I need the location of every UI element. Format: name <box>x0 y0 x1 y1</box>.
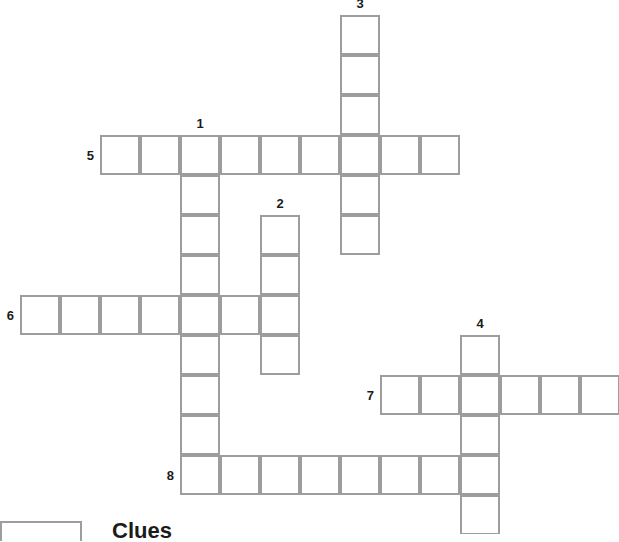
crossword-cell[interactable] <box>340 455 380 495</box>
crossword-cell[interactable] <box>180 175 220 215</box>
crossword-cell[interactable] <box>180 375 220 415</box>
crossword-cell[interactable] <box>20 295 60 335</box>
clue-number-4-down: 4 <box>476 317 483 330</box>
crossword-cell[interactable] <box>340 215 380 255</box>
crossword-cell[interactable] <box>180 335 220 375</box>
clue-number-3-down: 3 <box>356 0 363 10</box>
crossword-cell[interactable] <box>220 135 260 175</box>
crossword-cell[interactable] <box>140 135 180 175</box>
crossword-cell[interactable] <box>180 215 220 255</box>
crossword-cell[interactable] <box>100 135 140 175</box>
clue-number-5-across: 5 <box>87 149 94 162</box>
crossword-cell[interactable] <box>260 255 300 295</box>
clue-number-7-across: 7 <box>367 389 374 402</box>
crossword-cell[interactable] <box>380 135 420 175</box>
crossword-cell[interactable] <box>260 295 300 335</box>
crossword-cell[interactable] <box>580 375 619 415</box>
crossword-cell[interactable] <box>180 415 220 455</box>
clue-number-6-across: 6 <box>7 309 14 322</box>
crossword-cell[interactable] <box>260 335 300 375</box>
crossword-cell[interactable] <box>100 295 140 335</box>
crossword-cell[interactable] <box>460 455 500 495</box>
clue-number-1-down: 1 <box>196 117 203 130</box>
crossword-cell[interactable] <box>220 455 260 495</box>
clue-number-8-across: 8 <box>167 469 174 482</box>
crossword-cell[interactable] <box>460 415 500 455</box>
crossword-cell[interactable] <box>300 135 340 175</box>
crossword-cell[interactable] <box>300 455 340 495</box>
crossword-cell[interactable] <box>340 95 380 135</box>
crossword-cell[interactable] <box>460 375 500 415</box>
crossword-cell[interactable] <box>380 375 420 415</box>
answer-key-box <box>0 521 82 541</box>
crossword-cell[interactable] <box>420 135 460 175</box>
crossword-cell[interactable] <box>340 55 380 95</box>
crossword-cell[interactable] <box>260 215 300 255</box>
crossword-cell[interactable] <box>180 295 220 335</box>
clue-number-2-down: 2 <box>276 197 283 210</box>
crossword-cell[interactable] <box>460 335 500 375</box>
crossword-cell[interactable] <box>180 255 220 295</box>
crossword-cell[interactable] <box>420 455 460 495</box>
crossword-cell[interactable] <box>180 135 220 175</box>
crossword-cell[interactable] <box>500 375 540 415</box>
crossword-cell[interactable] <box>220 295 260 335</box>
crossword-cell[interactable] <box>260 455 300 495</box>
crossword-cell[interactable] <box>260 135 300 175</box>
crossword-cell[interactable] <box>180 455 220 495</box>
crossword-cell[interactable] <box>460 495 500 534</box>
crossword-cell[interactable] <box>420 375 460 415</box>
crossword-cell[interactable] <box>140 295 180 335</box>
crossword-cell[interactable] <box>340 15 380 55</box>
crossword-cell[interactable] <box>340 175 380 215</box>
crossword-cell[interactable] <box>340 135 380 175</box>
crossword-cell[interactable] <box>380 455 420 495</box>
crossword-cell[interactable] <box>540 375 580 415</box>
crossword-cell[interactable] <box>60 295 100 335</box>
clues-heading: Clues <box>112 520 172 542</box>
